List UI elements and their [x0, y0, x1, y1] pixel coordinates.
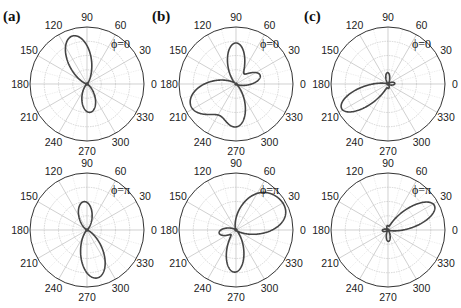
grid-spoke — [59, 181, 88, 230]
angle-tick-label: 150 — [169, 190, 187, 202]
angle-tick-label: 60 — [115, 19, 127, 31]
angle-tick-label: 330 — [136, 111, 154, 123]
grid-spoke — [339, 56, 388, 85]
angle-tick-label: 270 — [379, 145, 397, 157]
grid-spoke — [388, 175, 403, 230]
angle-tick-label: 270 — [78, 145, 96, 157]
angle-tick-label: 0 — [151, 224, 157, 236]
angle-tick-label: 180 — [160, 78, 178, 90]
radiation-pattern-curve — [190, 43, 260, 127]
angle-tick-label: 60 — [115, 165, 127, 177]
phi-label: ϕ=π — [111, 183, 130, 197]
angle-tick-label: 270 — [227, 291, 245, 303]
angle-tick-label: 300 — [261, 136, 279, 148]
grid-spoke — [373, 84, 388, 139]
angle-tick-label: 120 — [45, 165, 63, 177]
angle-tick-label: 90 — [382, 157, 394, 169]
grid-spoke — [87, 56, 136, 85]
grid-spoke — [221, 230, 236, 285]
phi-label: ϕ=0 — [412, 37, 431, 51]
grid-spoke — [333, 230, 388, 245]
angle-tick-label: 0 — [452, 224, 458, 236]
grid-spoke — [87, 230, 116, 279]
angle-tick-label: 240 — [346, 282, 364, 294]
angle-tick-label: 210 — [169, 257, 187, 269]
grid-spoke — [388, 230, 417, 279]
origin-marker — [386, 228, 390, 232]
angle-tick-label: 330 — [285, 111, 303, 123]
grid-spoke — [236, 84, 265, 133]
angle-tick-label: 300 — [112, 136, 130, 148]
angle-tick-label: 240 — [45, 282, 63, 294]
grid-spoke — [187, 84, 236, 113]
angle-tick-label: 0 — [151, 78, 157, 90]
polar-plot-5: 0306090120150180210240270300330ϕ=π — [312, 157, 458, 303]
angle-tick-label: 180 — [160, 224, 178, 236]
origin-marker — [85, 228, 89, 232]
grid-spoke — [221, 175, 236, 230]
grid-spoke — [87, 29, 102, 84]
angle-tick-label: 300 — [413, 136, 431, 148]
angle-tick-label: 90 — [230, 11, 242, 23]
angle-tick-label: 60 — [264, 19, 276, 31]
angle-tick-label: 30 — [440, 190, 452, 202]
phi-label: ϕ=π — [260, 183, 279, 197]
grid-spoke — [236, 84, 291, 99]
angle-tick-label: 330 — [285, 257, 303, 269]
grid-spoke — [221, 29, 236, 84]
origin-marker — [85, 82, 89, 86]
angle-tick-label: 270 — [78, 291, 96, 303]
origin-marker — [386, 82, 390, 86]
polar-plot-1: 0306090120150180210240270300330ϕ=0(b) — [152, 8, 306, 157]
phi-label: ϕ=π — [412, 183, 431, 197]
grid-spoke — [236, 29, 251, 84]
grid-spoke — [38, 84, 87, 113]
angle-tick-label: 120 — [194, 19, 212, 31]
angle-tick-label: 300 — [112, 282, 130, 294]
phi-label: ϕ=0 — [111, 37, 130, 51]
angle-tick-label: 150 — [169, 44, 187, 56]
grid-spoke — [388, 69, 443, 84]
angle-tick-label: 240 — [194, 136, 212, 148]
angle-tick-label: 30 — [139, 190, 151, 202]
grid-spoke — [208, 181, 237, 230]
angle-tick-label: 180 — [11, 78, 29, 90]
angle-tick-label: 60 — [264, 165, 276, 177]
grid-spoke — [388, 84, 437, 113]
polar-plot-4: 0306090120150180210240270300330ϕ=π — [160, 157, 306, 303]
grid-spoke — [32, 84, 87, 99]
grid-spoke — [360, 35, 389, 84]
polar-plot-3: 0306090120150180210240270300330ϕ=π — [11, 157, 157, 303]
angle-tick-label: 150 — [20, 44, 38, 56]
angle-tick-label: 30 — [288, 44, 300, 56]
angle-tick-label: 210 — [321, 111, 339, 123]
angle-tick-label: 180 — [312, 78, 330, 90]
panel-label: (a) — [3, 8, 21, 25]
phi-label: ϕ=0 — [260, 37, 279, 51]
angle-tick-label: 330 — [437, 111, 455, 123]
angle-tick-label: 150 — [321, 44, 339, 56]
grid-spoke — [339, 230, 388, 259]
grid-spoke — [388, 84, 443, 99]
angle-tick-label: 30 — [139, 44, 151, 56]
grid-spoke — [72, 175, 87, 230]
grid-spoke — [87, 69, 142, 84]
angle-tick-label: 60 — [416, 19, 428, 31]
grid-spoke — [87, 175, 102, 230]
angle-tick-label: 150 — [20, 190, 38, 202]
angle-tick-label: 240 — [346, 136, 364, 148]
angle-tick-label: 90 — [382, 11, 394, 23]
angle-tick-label: 210 — [169, 111, 187, 123]
angle-tick-label: 90 — [81, 11, 93, 23]
grid-spoke — [59, 35, 88, 84]
grid-spoke — [87, 84, 102, 139]
angle-tick-label: 60 — [416, 165, 428, 177]
grid-spoke — [388, 230, 443, 245]
grid-spoke — [236, 230, 291, 245]
grid-spoke — [236, 84, 251, 139]
angle-tick-label: 240 — [194, 282, 212, 294]
angle-tick-label: 0 — [300, 78, 306, 90]
grid-spoke — [333, 215, 388, 230]
angle-tick-label: 180 — [312, 224, 330, 236]
angle-tick-label: 90 — [230, 157, 242, 169]
